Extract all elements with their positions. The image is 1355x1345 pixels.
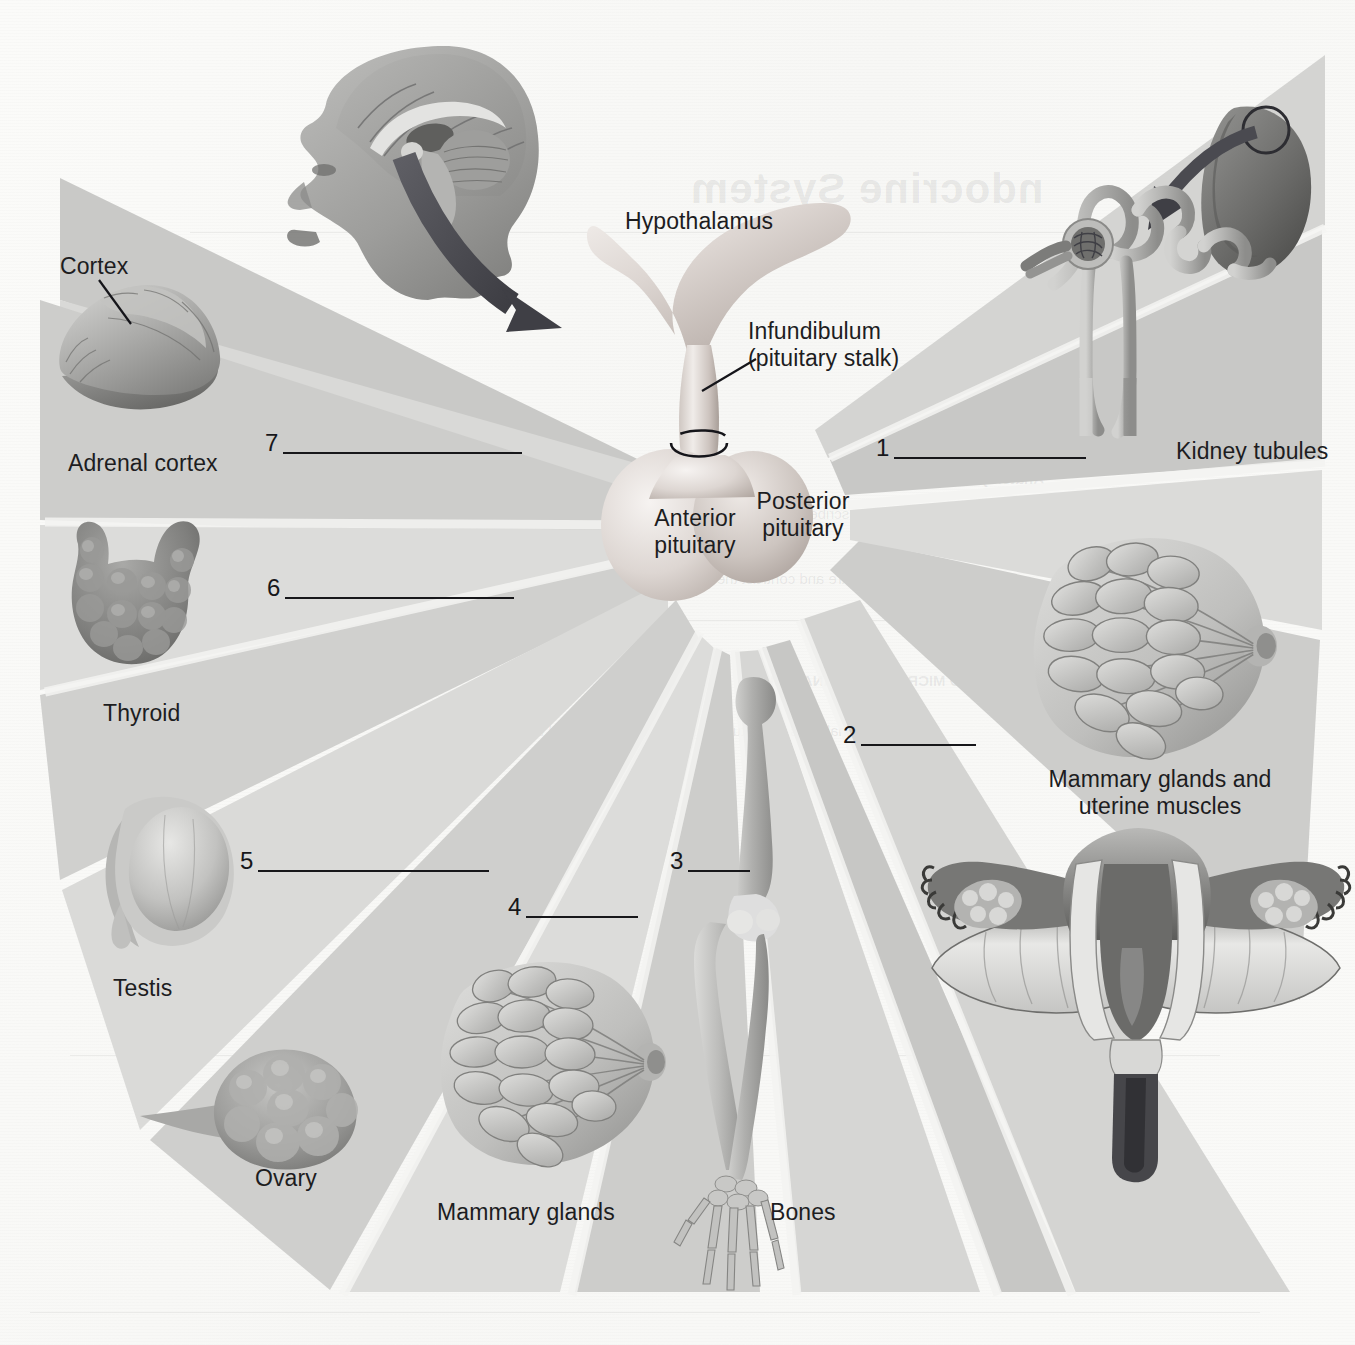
label-testis: Testis bbox=[113, 975, 172, 1002]
mammary-glands-illustration bbox=[428, 938, 678, 1188]
worksheet-page: ndocrine System OBJECTIVES Anatomy Descr… bbox=[0, 0, 1355, 1345]
blank-rule-2[interactable] bbox=[861, 744, 976, 746]
blank-number-5: 5 bbox=[240, 849, 253, 875]
label-hypothalamus: Hypothalamus bbox=[625, 208, 773, 235]
blank-number-7: 7 bbox=[265, 431, 278, 457]
blank-number-4: 4 bbox=[508, 895, 521, 921]
label-thyroid: Thyroid bbox=[103, 700, 180, 727]
label-bones: Bones bbox=[770, 1199, 836, 1226]
label-mammary-uterine-line1: Mammary glands and bbox=[990, 766, 1330, 793]
blank-line-5[interactable]: 5 bbox=[240, 845, 489, 875]
blank-line-3[interactable]: 3 bbox=[670, 845, 750, 875]
blank-line-1[interactable]: 1 bbox=[876, 432, 1086, 462]
uterus-illustration bbox=[926, 828, 1346, 1228]
blank-rule-4[interactable] bbox=[526, 916, 638, 918]
blank-line-4[interactable]: 4 bbox=[508, 891, 638, 921]
blank-line-6[interactable]: 6 bbox=[267, 572, 514, 602]
label-infundibulum-line1: Infundibulum bbox=[748, 318, 881, 345]
head-brain-inset-illustration bbox=[262, 32, 602, 432]
label-kidney-tubules: Kidney tubules bbox=[1176, 438, 1328, 465]
blank-number-1: 1 bbox=[876, 436, 889, 462]
label-posterior-pituitary-line1: Posterior bbox=[733, 488, 873, 515]
blank-rule-3[interactable] bbox=[688, 870, 750, 872]
blank-line-2[interactable]: 2 bbox=[843, 719, 976, 749]
infundibulum-leader-line bbox=[700, 355, 760, 395]
kidney-tubules-illustration bbox=[1020, 78, 1320, 438]
cortex-leader-line bbox=[97, 278, 137, 328]
blank-rule-5[interactable] bbox=[258, 870, 489, 872]
blank-number-6: 6 bbox=[267, 576, 280, 602]
label-infundibulum-line2: (pituitary stalk) bbox=[748, 345, 899, 372]
blank-line-7[interactable]: 7 bbox=[265, 427, 522, 457]
label-cortex: Cortex bbox=[60, 253, 128, 280]
blank-rule-1[interactable] bbox=[894, 457, 1086, 459]
label-ovary: Ovary bbox=[255, 1165, 317, 1192]
blank-number-2: 2 bbox=[843, 723, 856, 749]
thyroid-illustration bbox=[52, 516, 242, 676]
blank-rule-7[interactable] bbox=[283, 452, 522, 454]
label-mammary-glands: Mammary glands bbox=[437, 1199, 615, 1226]
blank-number-3: 3 bbox=[670, 849, 683, 875]
label-mammary-uterine-line2: uterine muscles bbox=[990, 793, 1330, 820]
ovary-illustration bbox=[138, 1030, 368, 1180]
label-posterior-pituitary-line2: pituitary bbox=[733, 515, 873, 542]
label-adrenal-cortex: Adrenal cortex bbox=[68, 450, 218, 477]
blank-rule-6[interactable] bbox=[285, 597, 514, 599]
mammary-uterine-breast-illustration bbox=[1020, 512, 1290, 782]
